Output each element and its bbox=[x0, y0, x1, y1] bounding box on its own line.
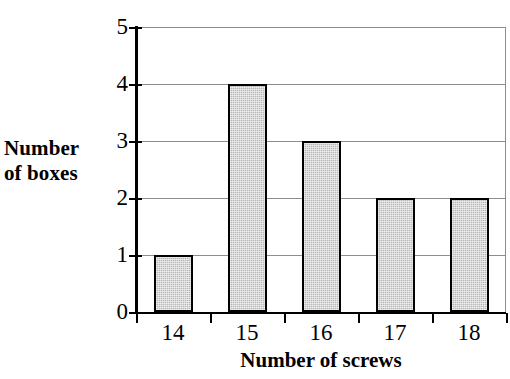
gridline bbox=[136, 84, 506, 85]
y-axis-tick bbox=[129, 27, 142, 29]
bar bbox=[228, 84, 267, 312]
plot-area bbox=[136, 27, 506, 312]
y-axis-tick-label: 2 bbox=[94, 186, 128, 209]
y-axis-tick-label: 3 bbox=[94, 129, 128, 152]
x-axis-tick-label: 15 bbox=[210, 320, 284, 346]
bar bbox=[450, 198, 489, 312]
bar bbox=[376, 198, 415, 312]
x-axis-baseline bbox=[136, 312, 506, 314]
y-axis-tick bbox=[129, 141, 142, 143]
x-axis-title: Number of screws bbox=[136, 348, 506, 372]
x-axis-tick bbox=[506, 313, 508, 323]
y-axis-title-line-1: Number bbox=[4, 136, 100, 161]
y-axis-tick-label: 0 bbox=[94, 300, 128, 323]
y-axis-tick bbox=[129, 84, 142, 86]
bar bbox=[154, 255, 193, 312]
y-axis-tick-label: 1 bbox=[94, 243, 128, 266]
y-axis-title: Number of boxes bbox=[4, 136, 100, 186]
bar bbox=[302, 141, 341, 312]
y-axis-tick bbox=[129, 255, 142, 257]
y-axis-tick-labels: 012345 bbox=[92, 0, 128, 379]
y-axis-tick-label: 4 bbox=[94, 72, 128, 95]
x-axis-tick-label: 14 bbox=[136, 320, 210, 346]
gridline bbox=[136, 27, 506, 28]
y-axis-tick bbox=[129, 198, 142, 200]
x-axis-tick-label: 18 bbox=[432, 320, 506, 346]
bar-chart: Number of boxes 012345 Number of screws … bbox=[0, 0, 510, 379]
y-axis-tick-label: 5 bbox=[94, 15, 128, 38]
y-axis-title-line-2: of boxes bbox=[4, 161, 100, 186]
x-axis-tick-label: 17 bbox=[358, 320, 432, 346]
plot-right-edge bbox=[505, 27, 506, 312]
x-axis-tick-label: 16 bbox=[284, 320, 358, 346]
